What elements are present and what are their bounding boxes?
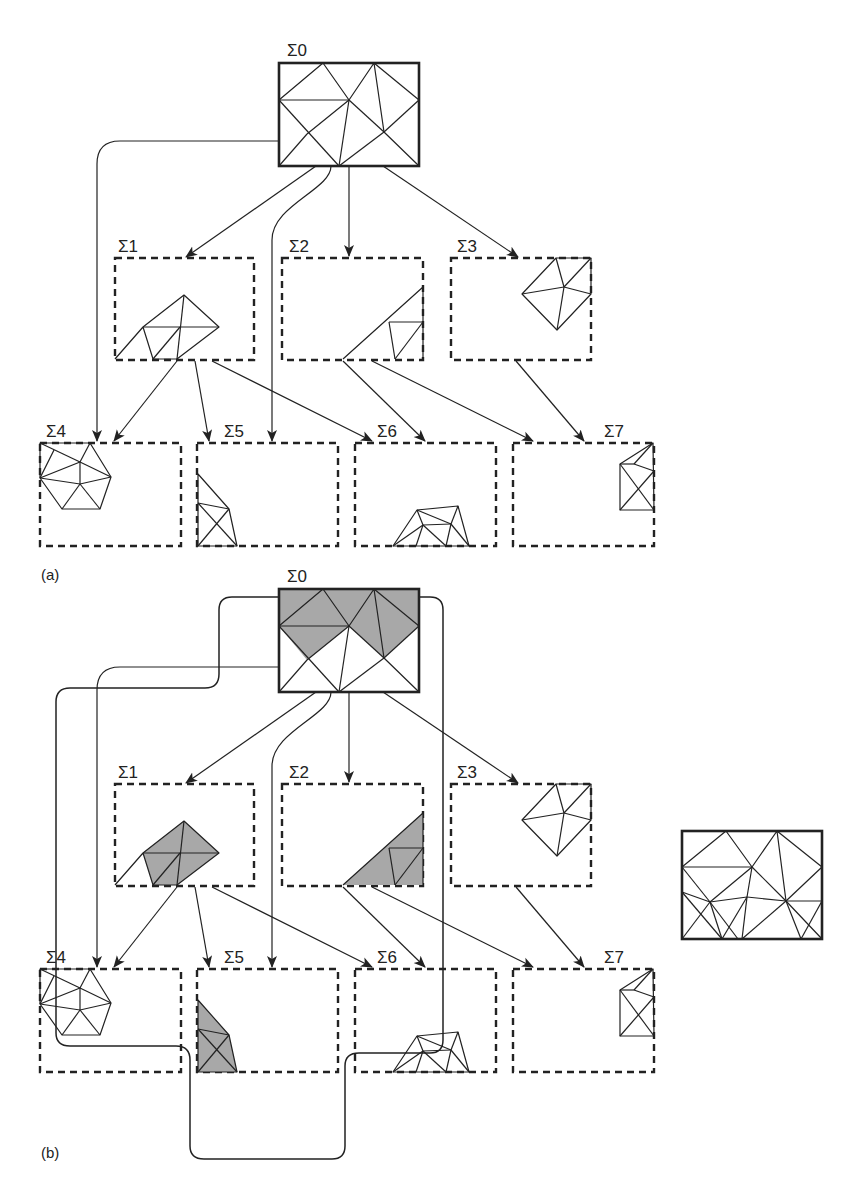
edge-s0-s3 [383, 692, 518, 783]
node-label: Σ5 [224, 422, 244, 441]
node-sigma4: Σ4 [40, 948, 181, 1072]
edges-b [97, 667, 584, 967]
node-sigma2: Σ2 [282, 763, 423, 886]
node-label: Σ1 [118, 237, 138, 256]
node-label: Σ2 [289, 763, 309, 782]
sigma3-box [451, 784, 591, 886]
sigma3-box [451, 258, 591, 360]
panel-b: Σ0 Σ1 [40, 567, 822, 1161]
edge-s1-s5 [195, 361, 209, 441]
node-sigma0: Σ0 [279, 567, 419, 692]
node-sigma1: Σ1 [115, 237, 254, 360]
sigma6-mesh [393, 1032, 469, 1072]
panel-a: Σ0 Σ1 [40, 41, 654, 583]
sigma4-mesh [40, 969, 111, 1035]
node-label: Σ0 [287, 41, 307, 60]
node-label: Σ7 [604, 422, 624, 441]
node-label: Σ1 [118, 763, 138, 782]
sigma5-box [197, 443, 338, 546]
node-sigma1: Σ1 [115, 763, 254, 886]
node-sigma3: Σ3 [451, 763, 591, 886]
sigma4-box [40, 969, 181, 1072]
sigma4-mesh [40, 443, 111, 509]
sigma1-mesh [115, 295, 219, 359]
edge-s0-s5 [272, 692, 331, 967]
panel-caption: (b) [41, 1144, 59, 1161]
sigma7-mesh [620, 969, 654, 1036]
sigma3-mesh [522, 784, 591, 856]
node-label: Σ7 [604, 948, 624, 967]
node-sigma5: Σ5 [197, 422, 338, 546]
sigma7-mesh [620, 443, 654, 510]
edge-s0-s4 [97, 141, 279, 441]
node-sigma2: Σ2 [282, 237, 423, 360]
node-label: Σ4 [46, 422, 66, 441]
node-label: Σ0 [287, 567, 307, 586]
node-label: Σ6 [377, 422, 397, 441]
node-sigma3: Σ3 [451, 237, 591, 360]
node-label: Σ4 [46, 948, 66, 967]
edge-s0-s4 [97, 667, 279, 967]
node-sigma4: Σ4 [40, 422, 181, 546]
sigma2-box [282, 258, 423, 360]
edge-s1-s4 [114, 887, 177, 967]
edge-s1-s4 [114, 361, 177, 441]
edges-a [97, 141, 584, 441]
sigma0-mesh [279, 63, 419, 166]
sigma2-mesh [343, 287, 423, 359]
result-mesh-box [682, 831, 822, 939]
result-mesh [682, 831, 822, 939]
node-label: Σ5 [224, 948, 244, 967]
sigma6-box [355, 443, 496, 546]
node-label: Σ3 [457, 763, 477, 782]
node-label: Σ2 [289, 237, 309, 256]
sigma0-box [279, 63, 419, 166]
panel-caption: (a) [41, 566, 59, 583]
result-mesh-triangles [682, 831, 822, 939]
node-label: Σ3 [457, 237, 477, 256]
node-sigma0: Σ0 [279, 41, 419, 166]
edge-s1-s5 [195, 887, 209, 967]
sigma3-mesh [522, 258, 591, 330]
edge-s0-s5 [272, 166, 331, 441]
node-label: Σ6 [377, 948, 397, 967]
sigma6-mesh [393, 506, 469, 546]
edge-s3-s7 [516, 361, 584, 441]
sigma6-box [355, 969, 496, 1072]
edge-s0-s3 [383, 166, 518, 257]
edge-s3-s7 [516, 887, 584, 967]
node-sigma5: Σ5 [197, 948, 338, 1072]
node-sigma6: Σ6 [355, 422, 496, 546]
sigma5-mesh [198, 474, 237, 546]
hierarchy-diagram: Σ0 Σ1 [0, 0, 854, 1184]
sigma4-box [40, 443, 181, 546]
sigma1-box [115, 258, 254, 360]
